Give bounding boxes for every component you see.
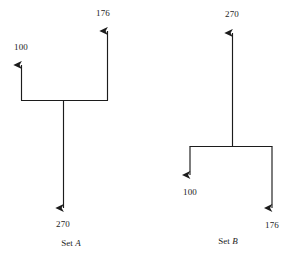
set-a-graphic <box>21 31 108 208</box>
set-a-caption-letter: A <box>75 238 81 248</box>
set-a-input-left-label: 100 <box>14 42 28 52</box>
set-a-input-right-label: 176 <box>96 8 110 18</box>
set-b-caption: Set B <box>218 236 237 246</box>
set-a-output-label: 270 <box>56 219 70 229</box>
set-b-graphic <box>190 33 273 208</box>
set-b-caption-letter: B <box>232 236 238 246</box>
set-a-caption-prefix: Set <box>61 238 75 248</box>
set-a-caption: Set A <box>61 238 80 248</box>
diagram-canvas <box>0 0 292 267</box>
figure-root: 100 176 270 Set A 270 100 176 Set B <box>0 0 292 267</box>
set-b-output-right-label: 176 <box>265 220 279 230</box>
set-b-caption-prefix: Set <box>218 236 232 246</box>
set-b-output-left-label: 100 <box>183 187 197 197</box>
set-b-input-label: 270 <box>225 9 239 19</box>
